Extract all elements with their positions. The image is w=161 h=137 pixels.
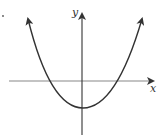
y-axis-label: y: [71, 6, 79, 19]
parabola-right-branch: [83, 19, 142, 108]
stray-dot: [2, 15, 4, 17]
parabola-left-branch: [28, 19, 83, 108]
x-axis-label: x: [150, 82, 157, 95]
parabola-graph: y x: [0, 0, 161, 137]
